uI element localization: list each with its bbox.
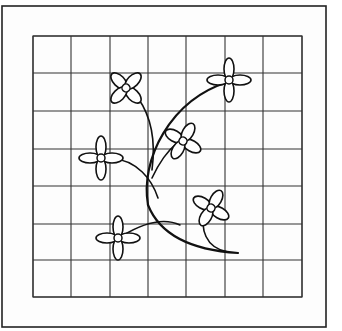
flower-center-icon xyxy=(114,234,122,242)
flower-center-icon xyxy=(97,154,105,162)
outer-frame xyxy=(2,6,326,327)
flower-grid-pattern xyxy=(0,0,342,331)
flower-center-icon xyxy=(225,76,233,84)
